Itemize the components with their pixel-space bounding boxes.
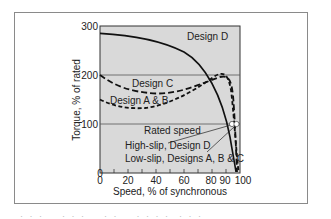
label-rated-speed: Rated speed: [144, 125, 201, 136]
x-tick-80: 80: [205, 175, 217, 186]
rated-point-low-slip: [234, 121, 239, 126]
y-tick-200: 200: [81, 70, 98, 81]
torque-speed-chart: 300 200 100 0 0 20 40 60 80 90 100 Speed…: [0, 0, 331, 219]
x-axis-title: Speed, % of synchronous: [113, 186, 227, 197]
x-tick-100: 100: [235, 175, 252, 186]
x-tick-40: 40: [150, 175, 162, 186]
label-design-ab: Design A & B: [110, 95, 169, 106]
label-high-slip: High-slip, Design D: [125, 140, 211, 151]
x-tick-60: 60: [178, 175, 190, 186]
cut-off-caption-fragment: · · · · · · · · · · · · · · ·: [20, 211, 320, 219]
y-tick-100: 100: [81, 119, 98, 130]
label-low-slip: Low-slip, Designs A, B & C: [125, 153, 244, 164]
label-design-d: Design D: [187, 31, 228, 42]
x-tick-90: 90: [219, 175, 231, 186]
y-tick-300: 300: [81, 21, 98, 32]
y-axis-title: Torque, % of rated: [71, 59, 82, 141]
label-design-c: Design C: [132, 78, 173, 89]
x-tick-20: 20: [122, 175, 134, 186]
x-tick-0: 0: [97, 175, 103, 186]
